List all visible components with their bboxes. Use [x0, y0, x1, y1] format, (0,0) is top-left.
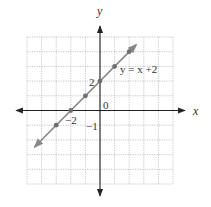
origin-label: 0 [103, 99, 109, 111]
data-point [83, 93, 88, 98]
data-point [54, 123, 59, 128]
tick-label-neg2: −2 [65, 114, 77, 126]
y-axis-label: y [96, 4, 103, 18]
labels: y x y = x +2 2 0 −2 −1 [65, 4, 199, 132]
x-axis-label: x [192, 104, 199, 118]
equation-label: y = x +2 [120, 63, 157, 75]
tick-label-neg1: −1 [86, 120, 98, 132]
tick-label-2: 2 [89, 76, 95, 88]
data-point [127, 49, 132, 54]
data-point [98, 79, 103, 84]
data-point [68, 108, 73, 113]
data-point [112, 64, 117, 69]
coordinate-plane: y x y = x +2 2 0 −2 −1 [0, 0, 211, 207]
